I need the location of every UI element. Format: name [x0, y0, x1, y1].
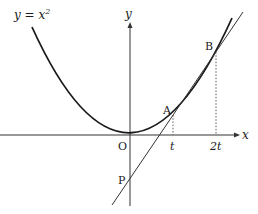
y-axis-label: y [124, 7, 132, 21]
curve-label: y = x2 [13, 7, 50, 22]
x-axis-label: x [242, 128, 249, 142]
parabola-diagram: y = x2 y x O A B P t 2t [0, 0, 258, 214]
point-P-label: P [118, 174, 126, 187]
point-A-label: A [162, 104, 172, 117]
x-axis [0, 133, 240, 138]
origin-label: O [118, 140, 127, 153]
line-PAB [112, 12, 243, 205]
point-B-label: B [205, 40, 213, 53]
tick-t-label: t [170, 140, 175, 153]
tick-2t-label: 2t [209, 140, 222, 153]
parabola-curve [32, 18, 232, 133]
